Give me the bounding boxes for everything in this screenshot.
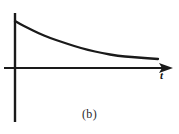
figure-container: t (b) bbox=[0, 0, 179, 134]
figure-caption: (b) bbox=[0, 108, 179, 120]
x-axis-label: t bbox=[160, 70, 163, 81]
exponential-decay-curve bbox=[15, 21, 158, 59]
